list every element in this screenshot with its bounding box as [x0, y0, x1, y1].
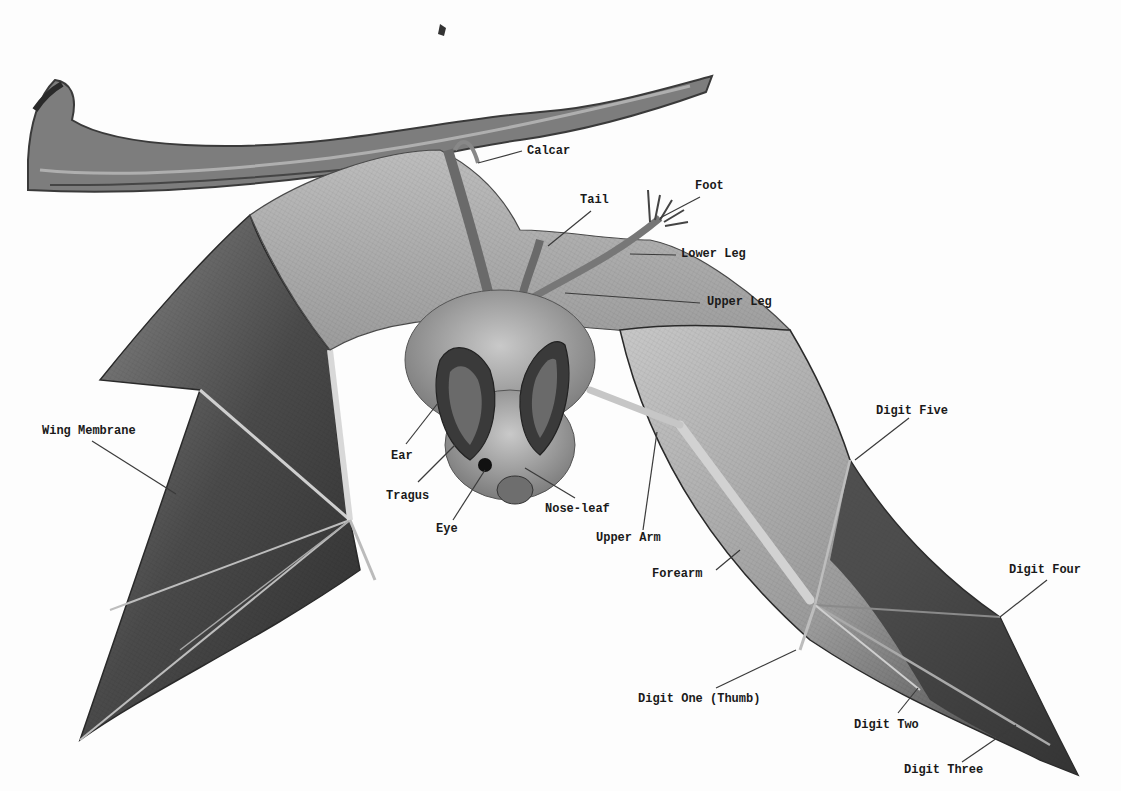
- leader-ear: [406, 403, 438, 444]
- leader-calcar: [478, 151, 522, 163]
- leader-wing-membrane: [92, 441, 176, 494]
- label-wing-membrane: Wing Membrane: [42, 424, 136, 438]
- label-tragus: Tragus: [386, 489, 429, 503]
- bat-body: [405, 290, 595, 504]
- speck: [438, 24, 446, 36]
- leader-digit-one-thumb: [716, 650, 796, 688]
- label-digit-two: Digit Two: [854, 718, 919, 732]
- leader-upper-arm: [643, 432, 657, 530]
- label-nose-leaf: Nose-leaf: [545, 502, 610, 516]
- right-wing: [590, 326, 1078, 775]
- leader-digit-five: [855, 418, 909, 460]
- label-eye: Eye: [436, 522, 458, 536]
- label-foot: Foot: [695, 179, 724, 193]
- label-upper-leg: Upper Leg: [707, 295, 772, 309]
- leader-foot: [660, 197, 700, 218]
- leader-digit-four: [1000, 580, 1047, 617]
- label-calcar: Calcar: [527, 144, 570, 158]
- label-lower-leg: Lower Leg: [681, 247, 746, 261]
- label-forearm: Forearm: [652, 567, 702, 581]
- label-digit-five: Digit Five: [876, 404, 948, 418]
- label-digit-three: Digit Three: [904, 763, 983, 777]
- bat-anatomy-figure: Calcar Foot Tail Lower Leg Upper Leg Win…: [0, 0, 1121, 791]
- label-digit-one-thumb: Digit One (Thumb): [638, 692, 760, 706]
- label-digit-four: Digit Four: [1009, 563, 1081, 577]
- bat-illustration: [0, 0, 1121, 791]
- label-tail: Tail: [580, 193, 609, 207]
- label-upper-arm: Upper Arm: [596, 531, 661, 545]
- label-ear: Ear: [391, 449, 413, 463]
